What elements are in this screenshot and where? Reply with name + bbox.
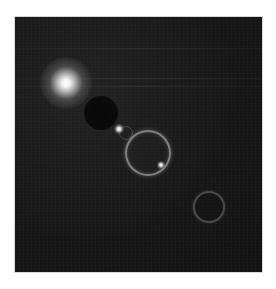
- dark-flare-disc: [84, 96, 118, 130]
- light-source-glow: [40, 57, 92, 109]
- large-flare-ring: [125, 130, 171, 176]
- ring-bright-spot: [157, 161, 165, 169]
- horizontal-streak: [15, 48, 262, 49]
- small-flare-dot: [114, 124, 124, 134]
- dim-flare-ring: [193, 191, 225, 223]
- lens-flare-image: [15, 17, 262, 272]
